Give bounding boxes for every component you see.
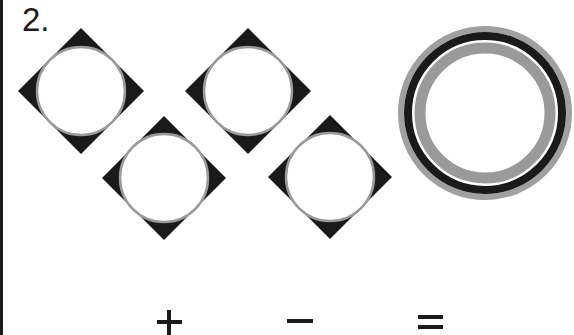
- diamond-circle-shape-2: [185, 28, 311, 154]
- diamond-circle-shape-4: [268, 115, 392, 239]
- circle-icon: [120, 134, 208, 222]
- circle-icon: [286, 133, 374, 221]
- concentric-rings: [401, 29, 569, 197]
- diamond-circle-shape-1: [18, 28, 144, 154]
- circle-icon: [204, 47, 292, 135]
- diamond-circle-shape-3: [102, 116, 226, 240]
- inner-gray-ring-icon: [420, 48, 550, 178]
- equals-sign-icon: [418, 315, 443, 329]
- minus-sign-icon: [287, 319, 313, 323]
- circle-icon: [37, 47, 125, 135]
- outer-gray-ring-icon: [401, 29, 569, 197]
- black-ring-icon: [408, 36, 562, 190]
- puzzle-canvas: [0, 0, 574, 335]
- plus-sign-icon: [157, 310, 182, 335]
